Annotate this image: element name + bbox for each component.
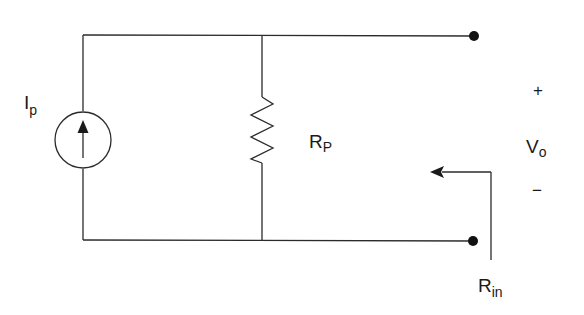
- arrow-left-icon: [430, 166, 444, 178]
- input-resistance-label: Rin: [478, 275, 503, 300]
- current-source-label: Ip: [24, 92, 37, 118]
- top-wire: [83, 35, 474, 36]
- resistor-zigzag: [251, 97, 273, 163]
- circuit-diagram: Ip RP + Vo − Rin: [0, 0, 584, 315]
- bottom-output-terminal: [468, 236, 478, 246]
- arrow-up-icon: [78, 120, 89, 158]
- minus-sign: −: [532, 181, 542, 200]
- current-source: [55, 112, 111, 168]
- bottom-wire: [83, 240, 473, 241]
- plus-sign: +: [533, 81, 543, 100]
- input-resistance-arrow: [430, 166, 491, 260]
- output-voltage-label: Vo: [526, 136, 547, 160]
- top-output-terminal: [469, 31, 479, 41]
- resistor-label: RP: [309, 131, 332, 155]
